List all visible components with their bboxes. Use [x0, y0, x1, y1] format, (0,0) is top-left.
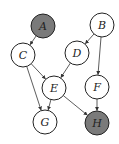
- node-f: F: [85, 75, 109, 99]
- node-label: E: [49, 82, 58, 95]
- edge-b-to-d: [85, 34, 94, 44]
- bayesian-network-diagram: ABCDEFGH: [0, 0, 119, 144]
- node-d: D: [65, 41, 89, 65]
- node-label: H: [91, 117, 102, 130]
- edge-d-to-e: [61, 63, 71, 78]
- edge-c-to-e: [31, 64, 45, 79]
- nodes-layer: ABCDEFGH: [11, 13, 114, 135]
- edge-b-to-f: [98, 37, 101, 75]
- node-g: G: [33, 110, 57, 134]
- node-label: A: [38, 20, 47, 33]
- edge-c-to-g: [27, 66, 41, 110]
- node-c: C: [11, 43, 35, 67]
- edges-layer: [27, 34, 101, 115]
- node-label: D: [72, 47, 82, 60]
- node-b: B: [90, 13, 114, 37]
- node-label: F: [92, 81, 101, 94]
- edge-e-to-g: [48, 100, 51, 110]
- node-label: C: [19, 49, 28, 62]
- node-h: H: [85, 111, 109, 135]
- node-a: A: [31, 14, 55, 38]
- node-label: B: [97, 19, 106, 32]
- node-label: G: [41, 116, 50, 129]
- edge-e-to-h: [63, 96, 87, 116]
- edge-a-to-c: [30, 36, 36, 45]
- node-e: E: [42, 76, 66, 100]
